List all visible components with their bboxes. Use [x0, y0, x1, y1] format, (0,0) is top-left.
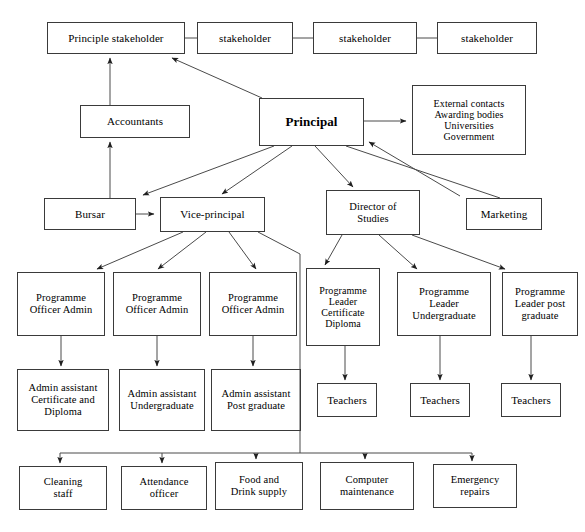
node-admin-assistant-post-graduate[interactable]: Admin assistant Post graduate: [211, 369, 301, 431]
connector-director-to-pl-certificate: [325, 235, 342, 265]
node-label-attendance-officer: Attendance officer: [124, 476, 204, 500]
node-stakeholder-2[interactable]: stakeholder: [313, 22, 417, 54]
node-label-stakeholder-3: stakeholder: [440, 32, 534, 44]
node-label-principle-stakeholder: Principle stakeholder: [50, 32, 182, 44]
node-emergency-repairs[interactable]: Emergency repairs: [433, 464, 517, 508]
node-bursar[interactable]: Bursar: [44, 198, 136, 230]
node-director-of-studies[interactable]: Director of Studies: [326, 190, 420, 235]
node-vice-principal[interactable]: Vice-principal: [160, 197, 265, 232]
node-external-contacts[interactable]: External contacts Awarding bodies Univer…: [412, 85, 526, 155]
node-label-teachers-2: Teachers: [413, 394, 467, 406]
connector-principal-to-vice-principal: [222, 146, 292, 194]
node-admin-assistant-undergraduate[interactable]: Admin assistant Undergraduate: [119, 369, 205, 431]
node-label-stakeholder-1: stakeholder: [200, 32, 290, 44]
connector-vice-principal-to-poa-2: [158, 232, 206, 269]
node-label-emergency-repairs: Emergency repairs: [436, 474, 514, 498]
node-programme-leader-certificate-diploma[interactable]: Programme Leader Certificate Diploma: [306, 268, 380, 346]
node-teachers-2[interactable]: Teachers: [410, 383, 470, 417]
connector-director-to-pl-undergraduate: [379, 235, 417, 269]
node-label-marketing: Marketing: [469, 208, 539, 220]
node-attendance-officer[interactable]: Attendance officer: [121, 466, 207, 510]
node-label-admin-assistant-post-graduate: Admin assistant Post graduate: [214, 388, 298, 412]
node-label-vice-principal: Vice-principal: [163, 208, 262, 220]
node-marketing[interactable]: Marketing: [466, 198, 542, 230]
node-stakeholder-3[interactable]: stakeholder: [437, 22, 537, 54]
node-food-and-drink-supply[interactable]: Food and Drink supply: [215, 462, 303, 510]
node-label-admin-assistant-certificate-diploma: Admin assistant Certificate and Diploma: [20, 382, 106, 417]
node-label-teachers-3: Teachers: [504, 394, 558, 406]
node-label-accountants: Accountants: [83, 115, 187, 127]
connector-layer: [0, 0, 585, 532]
node-programme-leader-undergraduate[interactable]: Programme Leader Undergraduate: [397, 272, 491, 336]
node-programme-leader-post-graduate[interactable]: Programme Leader post graduate: [502, 272, 578, 336]
node-label-cleaning-staff: Cleaning staff: [22, 476, 104, 500]
node-cleaning-staff[interactable]: Cleaning staff: [19, 466, 107, 510]
connector-principal-to-director-of-studies: [315, 146, 353, 187]
node-principal[interactable]: Principal: [259, 98, 364, 146]
connector-principal-to-principle-stakeholder: [172, 58, 262, 98]
connector-vice-principal-to-poa-3: [229, 232, 256, 269]
node-admin-assistant-certificate-diploma[interactable]: Admin assistant Certificate and Diploma: [17, 369, 109, 431]
node-teachers-1[interactable]: Teachers: [317, 383, 377, 417]
node-label-admin-assistant-undergraduate: Admin assistant Undergraduate: [122, 388, 202, 412]
node-accountants[interactable]: Accountants: [80, 105, 190, 138]
node-label-computer-maintenance: Computer maintenance: [323, 474, 411, 498]
node-label-director-of-studies: Director of Studies: [329, 201, 417, 225]
node-teachers-3[interactable]: Teachers: [501, 383, 561, 417]
connector-vice-principal-to-poa-1: [97, 232, 183, 269]
node-principle-stakeholder[interactable]: Principle stakeholder: [47, 22, 185, 54]
node-label-programme-leader-undergraduate: Programme Leader Undergraduate: [400, 286, 488, 321]
node-programme-officer-admin-3[interactable]: Programme Officer Admin: [209, 272, 297, 336]
node-label-programme-officer-admin-1: Programme Officer Admin: [20, 292, 102, 316]
node-label-programme-leader-certificate-diploma: Programme Leader Certificate Diploma: [309, 285, 377, 330]
node-label-teachers-1: Teachers: [320, 394, 374, 406]
node-label-programme-leader-post-graduate: Programme Leader post graduate: [505, 286, 575, 321]
node-computer-maintenance[interactable]: Computer maintenance: [320, 462, 414, 510]
org-chart-diagram: Principle stakeholderstakeholderstakehol…: [0, 0, 585, 532]
node-stakeholder-1[interactable]: stakeholder: [197, 22, 293, 54]
node-label-principal: Principal: [262, 115, 361, 130]
node-label-external-contacts: External contacts Awarding bodies Univer…: [415, 98, 523, 143]
node-label-food-and-drink-supply: Food and Drink supply: [218, 474, 300, 498]
node-programme-officer-admin-2[interactable]: Programme Officer Admin: [113, 272, 201, 336]
connector-director-to-pl-post-graduate: [412, 235, 505, 269]
node-label-stakeholder-2: stakeholder: [316, 32, 414, 44]
connector-principal-to-bursar: [143, 146, 274, 195]
node-label-bursar: Bursar: [47, 208, 133, 220]
node-programme-officer-admin-1[interactable]: Programme Officer Admin: [17, 272, 105, 336]
node-label-programme-officer-admin-3: Programme Officer Admin: [212, 292, 294, 316]
node-label-programme-officer-admin-2: Programme Officer Admin: [116, 292, 198, 316]
